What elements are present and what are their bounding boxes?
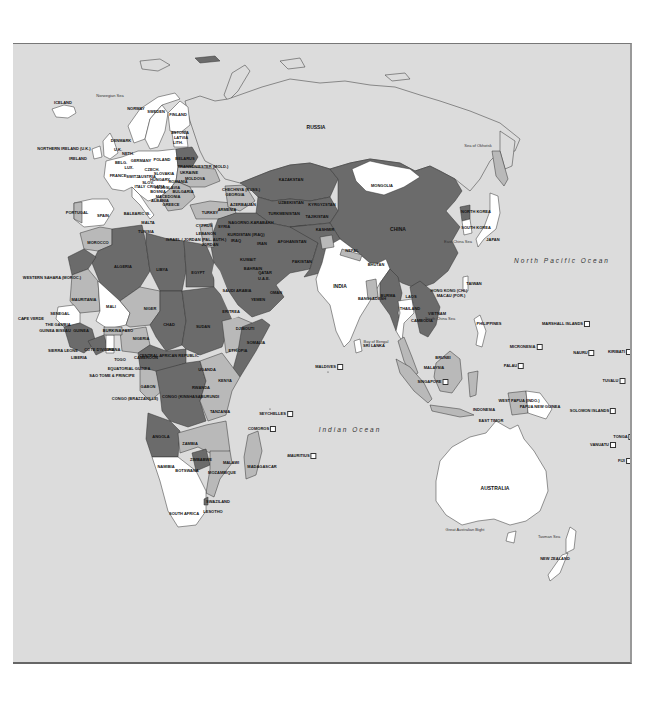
country-label-moldova: MOLDOVA — [185, 177, 205, 181]
country-label-malawi: MALAWI — [223, 461, 239, 465]
country-label-china: CHINA — [390, 227, 406, 232]
country-label-slovakia: SLOVAKIA — [154, 172, 174, 176]
country-label-text: KIRIBATI — [608, 349, 625, 354]
country-label-nagorno: NAGORNO-KARABAKH — [228, 221, 273, 225]
country-label-jordan: JORDAN — [202, 243, 219, 247]
country-label-iraq: IRAQ — [231, 239, 241, 243]
country-label-eritrea: ERITREA — [222, 310, 240, 314]
country-label-mauritius: MAURITIUS — [287, 453, 316, 459]
country-label-lithuania: LITH. — [173, 141, 183, 145]
new-siberian-islands — [385, 73, 410, 81]
country-label-portugal: PORTUGAL — [66, 211, 88, 215]
country-label-text: TRANSDNIESTER (MOLD.) — [178, 164, 229, 169]
country-label-text: CONGO (BRAZZAVILLE) — [112, 396, 158, 401]
country-label-car: CENTRAL AFRICAN REPUBLIC — [139, 354, 199, 358]
country-label-text: RUSSIA — [307, 124, 326, 130]
country-label-text: EGYPT — [191, 270, 205, 275]
country-label-text: LEBANON — [196, 231, 216, 236]
country-label-gabon: GABON — [141, 385, 156, 389]
country-label-text: CHAD — [163, 322, 175, 327]
country-label-text: TUNISIA — [138, 229, 154, 234]
country-label-morocco: MOROCCO — [87, 241, 108, 245]
country-label-text: MALAWI — [223, 460, 239, 465]
country-label-marshall-islands: MARSHALL ISLANDS — [542, 321, 590, 327]
country-label-text: NAURU — [573, 350, 587, 355]
country-label-luxembourg: LUX. — [124, 166, 133, 170]
country-label-text: GUINEA — [73, 328, 89, 333]
seychelles-dot — [269, 408, 270, 409]
country-label-norway: NORWAY — [127, 107, 145, 111]
country-label-solomon-islands: SOLOMON ISLANDS — [570, 408, 616, 414]
country-label-west-papua: WEST PAPUA (INDO.) — [498, 399, 539, 403]
sulawesi — [468, 371, 478, 397]
country-label-australia: AUSTRALIA — [481, 486, 510, 491]
island-marker-icon — [518, 363, 524, 369]
country-label-text: NAGORNO-KARABAKH — [228, 220, 273, 225]
country-label-lesotho: LESOTHO — [203, 510, 222, 514]
country-label-text: TUVALU — [603, 378, 619, 383]
island-marker-icon — [626, 349, 632, 355]
island-marker-icon — [311, 453, 317, 459]
island-marker-icon — [610, 408, 616, 414]
country-label-tonga: TONGA — [613, 434, 632, 440]
country-label-swaziland: SWAZILAND — [206, 500, 230, 504]
country-label-text: AZERBAIJAN — [230, 202, 256, 207]
country-label-text: SUDAN — [196, 324, 210, 329]
country-label-text: MOZAMBIQUE — [208, 470, 236, 475]
country-label-text: KAZAKSTAN — [279, 177, 304, 182]
country-label-laos: LAOS — [405, 295, 416, 299]
country-label-bhutan: BHUTAN — [368, 263, 385, 267]
country-label-egypt: EGYPT — [191, 271, 205, 275]
country-label-text: KURDISTAN (IRAQ) — [227, 232, 264, 237]
country-label-text: YEMEN — [251, 297, 265, 302]
country-label-text: NEW ZEALAND — [540, 556, 570, 561]
country-label-uganda: UGANDA — [198, 368, 216, 372]
country-label-text: GREECE — [163, 202, 180, 207]
country-label-northern-ireland: NORTHERN IRELAND (U.K.) — [37, 147, 90, 151]
country-label-comoros: COMOROS — [248, 426, 276, 432]
country-label-chad: CHAD — [163, 323, 175, 327]
country-label-text: GUINEA BISSAU — [39, 328, 71, 333]
country-label-text: BURUNDI — [201, 394, 219, 399]
country-label-djibouti: DJIBOUTI — [236, 327, 255, 331]
philippines — [474, 315, 486, 347]
country-label-text: TAIWAN — [466, 281, 481, 286]
country-label-text: UZBEKISTAN — [278, 200, 303, 205]
country-label-rwanda: RWANDA — [192, 386, 210, 390]
country-label-text: GERMANY — [131, 158, 151, 163]
country-label-seychelles: SEYCHELLES — [259, 411, 293, 417]
country-label-text: NIGER — [144, 306, 157, 311]
country-label-ireland: IRELAND — [69, 157, 87, 161]
country-label-maldives: MALDIVES — [315, 364, 343, 370]
egypt — [184, 241, 214, 287]
country-label-russia: RUSSIA — [307, 125, 326, 130]
country-label-kenya: KENYA — [218, 379, 232, 383]
country-label-text: SEYCHELLES — [259, 411, 286, 416]
new-zealand-north — [566, 527, 576, 553]
island-marker-icon — [270, 426, 276, 432]
country-label-text: SINGAPORE — [417, 379, 441, 384]
country-label-text: IRAN — [257, 241, 267, 246]
country-label-text: PAPUA NEW GUINEA — [520, 404, 561, 409]
country-label-text: PHILIPPINES — [477, 321, 502, 326]
country-label-germany: GERMANY — [131, 159, 151, 163]
country-label-text: TANZANIA — [210, 409, 230, 414]
country-label-japan: JAPAN — [486, 238, 499, 242]
country-label-text: ZAMBIA — [182, 441, 198, 446]
country-label-text: ITALY — [135, 184, 146, 189]
country-label-text: KENYA — [218, 378, 232, 383]
country-label-text: ALGERIA — [114, 264, 132, 269]
island-marker-icon — [629, 434, 632, 440]
country-label-text: EQUATORIAL GUINEA — [108, 366, 151, 371]
country-label-text: KYRGYZSTAN — [308, 202, 335, 207]
country-label-palau: PALAU — [504, 363, 524, 369]
country-label-text: INDONESIA — [473, 407, 495, 412]
country-label-text: NORTH KOREA — [461, 209, 491, 214]
country-label-tunisia: TUNISIA — [138, 230, 154, 234]
country-label-text: ETHIOPIA — [229, 348, 248, 353]
country-label-tanzania: TANZANIA — [210, 410, 230, 414]
country-label-text: COMOROS — [248, 426, 269, 431]
country-label-text: NORTHERN IRELAND (U.K.) — [37, 146, 90, 151]
country-label-balearic: BALEARIC IS. — [124, 212, 151, 216]
country-label-liberia: LIBERIA — [71, 356, 87, 360]
